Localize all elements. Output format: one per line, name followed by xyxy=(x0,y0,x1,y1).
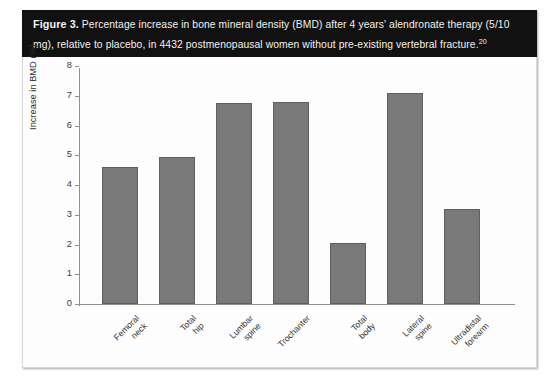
figure-caption-text: Percentage increase in bone mineral dens… xyxy=(33,19,510,50)
figure-panel: Figure 3. Percentage increase in bone mi… xyxy=(22,10,537,368)
bar-slot xyxy=(273,68,309,304)
bar-slot xyxy=(216,68,252,304)
figure-caption-band: Figure 3. Percentage increase in bone mi… xyxy=(22,10,537,57)
bar-slot xyxy=(102,68,138,304)
chart-bar[interactable] xyxy=(387,93,423,304)
bar-slot xyxy=(330,68,366,304)
chart-plot-body: Increase in BMD (%) 012345678 Femoralnec… xyxy=(22,57,537,368)
y-axis-tick-mark xyxy=(75,96,79,97)
y-axis-tick-label: 7 xyxy=(67,89,72,102)
figure-caption: Figure 3. Percentage increase in bone mi… xyxy=(33,16,526,53)
y-axis-tick-mark xyxy=(75,185,79,186)
bar-slot xyxy=(444,68,480,304)
x-axis-line xyxy=(79,304,515,305)
y-axis-tick: 6 xyxy=(53,126,79,127)
y-axis-tick-label: 8 xyxy=(67,59,72,72)
y-axis-tick-mark xyxy=(75,215,79,216)
y-axis-tick-label: 5 xyxy=(67,148,72,161)
y-axis-tick-label: 1 xyxy=(67,267,72,280)
chart-bar[interactable] xyxy=(330,243,366,304)
chart-bar[interactable] xyxy=(444,209,480,304)
chart-bar[interactable] xyxy=(102,167,138,304)
y-axis-tick-mark xyxy=(75,126,79,127)
y-axis-tick-label: 3 xyxy=(67,208,72,221)
bar-slot xyxy=(159,68,195,304)
y-axis-tick-mark xyxy=(75,66,79,67)
y-axis-tick: 1 xyxy=(53,274,79,275)
y-axis-tick: 5 xyxy=(53,155,79,156)
plot-area: 012345678 xyxy=(79,68,515,305)
figure-number: Figure 3. xyxy=(33,18,79,30)
y-axis-tick-label: 2 xyxy=(67,238,72,251)
y-axis-tick-mark xyxy=(75,274,79,275)
y-axis-tick-mark xyxy=(75,245,79,246)
chart-bar[interactable] xyxy=(159,157,195,304)
y-axis-tick-mark xyxy=(75,155,79,156)
y-axis-tick: 4 xyxy=(53,185,79,186)
bars-layer xyxy=(80,68,515,304)
y-axis-tick: 2 xyxy=(53,245,79,246)
figure-reference-superscript: 20 xyxy=(479,37,487,46)
chart-bar[interactable] xyxy=(216,103,252,304)
y-axis-tick: 8 xyxy=(53,66,79,67)
y-axis-tick-label: 6 xyxy=(67,119,72,132)
y-axis-title: Increase in BMD (%) xyxy=(28,22,38,152)
y-axis-tick: 0 xyxy=(53,304,79,305)
bar-slot xyxy=(387,68,423,304)
y-axis-tick: 3 xyxy=(53,215,79,216)
y-axis-tick-mark xyxy=(75,304,79,305)
chart-bar[interactable] xyxy=(273,102,309,304)
y-axis-tick-label: 0 xyxy=(67,297,72,310)
x-axis-labels: FemoralneckTotalhipLumbarspineTrochanter… xyxy=(80,313,516,383)
y-axis-tick: 7 xyxy=(53,96,79,97)
y-axis-tick-label: 4 xyxy=(67,178,72,191)
